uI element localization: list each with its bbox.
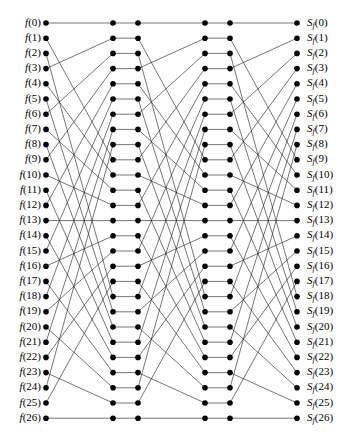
graph-node — [202, 157, 208, 163]
edge — [138, 175, 205, 205]
graph-node — [110, 385, 116, 391]
graph-node — [294, 142, 300, 148]
graph-node — [43, 142, 49, 148]
permutation-network-figure: f(0)f(1)f(2)f(3)f(4)f(5)f(6)f(7)f(8)f(9)… — [0, 0, 363, 442]
graph-node — [110, 127, 116, 133]
graph-node — [110, 339, 116, 345]
graph-node — [202, 355, 208, 361]
graph-node — [227, 66, 233, 72]
graph-node — [227, 415, 233, 421]
graph-node — [43, 355, 49, 361]
graph-node — [135, 355, 141, 361]
edge — [46, 281, 113, 403]
edge — [230, 327, 297, 388]
graph-node — [43, 203, 49, 209]
graph-node — [294, 187, 300, 193]
graph-node — [110, 355, 116, 361]
edge — [230, 129, 297, 342]
edge — [46, 236, 113, 358]
edge — [138, 236, 205, 266]
network-graph — [0, 0, 363, 442]
graph-node — [110, 370, 116, 376]
graph-node — [202, 370, 208, 376]
graph-node — [294, 248, 300, 254]
edge — [138, 281, 205, 403]
graph-node — [110, 415, 116, 421]
graph-node — [227, 35, 233, 41]
graph-node — [110, 187, 116, 193]
edge — [138, 145, 205, 388]
node-column-5 — [294, 20, 300, 421]
graph-node — [43, 20, 49, 26]
node-column-3 — [202, 20, 208, 421]
graph-node — [135, 279, 141, 285]
graph-node — [110, 218, 116, 224]
edge — [138, 251, 205, 312]
graph-node — [43, 370, 49, 376]
graph-node — [43, 187, 49, 193]
node-column-1 — [110, 20, 116, 421]
graph-node — [202, 35, 208, 41]
node-column-0 — [43, 20, 49, 421]
graph-node — [227, 218, 233, 224]
graph-node — [135, 309, 141, 315]
graph-node — [135, 415, 141, 421]
graph-node — [110, 81, 116, 87]
graph-node — [110, 400, 116, 406]
graph-node — [135, 294, 141, 300]
graph-node — [202, 172, 208, 178]
edge — [46, 53, 113, 114]
graph-node — [135, 20, 141, 26]
graph-node — [227, 339, 233, 345]
graph-node — [202, 248, 208, 254]
graph-node — [43, 263, 49, 269]
edge — [230, 145, 297, 388]
graph-node — [110, 157, 116, 163]
graph-node — [202, 400, 208, 406]
graph-node — [110, 96, 116, 102]
graph-node — [202, 111, 208, 117]
graph-node — [294, 385, 300, 391]
graph-node — [227, 248, 233, 254]
graph-node — [294, 370, 300, 376]
graph-node — [110, 20, 116, 26]
graph-node — [110, 233, 116, 239]
graph-node — [227, 203, 233, 209]
edge — [46, 251, 113, 312]
graph-node — [135, 142, 141, 148]
graph-node — [110, 142, 116, 148]
graph-node — [43, 233, 49, 239]
graph-node — [135, 66, 141, 72]
edge — [46, 84, 113, 206]
graph-node — [43, 309, 49, 315]
graph-node — [294, 309, 300, 315]
edge — [138, 99, 205, 251]
graph-node — [202, 263, 208, 269]
edge — [230, 373, 297, 403]
graph-node — [135, 324, 141, 330]
graph-node — [294, 233, 300, 239]
graph-node — [110, 248, 116, 254]
graph-node — [227, 81, 233, 87]
graph-node — [43, 51, 49, 57]
graph-node — [227, 400, 233, 406]
graph-node — [202, 218, 208, 224]
graph-node — [43, 157, 49, 163]
graph-node — [202, 20, 208, 26]
graph-node — [227, 233, 233, 239]
edge — [138, 236, 205, 358]
graph-node — [202, 279, 208, 285]
graph-node — [227, 51, 233, 57]
graph-node — [227, 96, 233, 102]
stage-1-edges — [46, 23, 113, 418]
graph-node — [294, 339, 300, 345]
graph-node — [202, 415, 208, 421]
edge — [46, 236, 113, 266]
interstage-2-links — [205, 23, 230, 418]
graph-node — [43, 248, 49, 254]
edge — [138, 53, 205, 114]
graph-node — [294, 81, 300, 87]
graph-node — [202, 187, 208, 193]
graph-node — [202, 385, 208, 391]
edge — [230, 38, 297, 68]
